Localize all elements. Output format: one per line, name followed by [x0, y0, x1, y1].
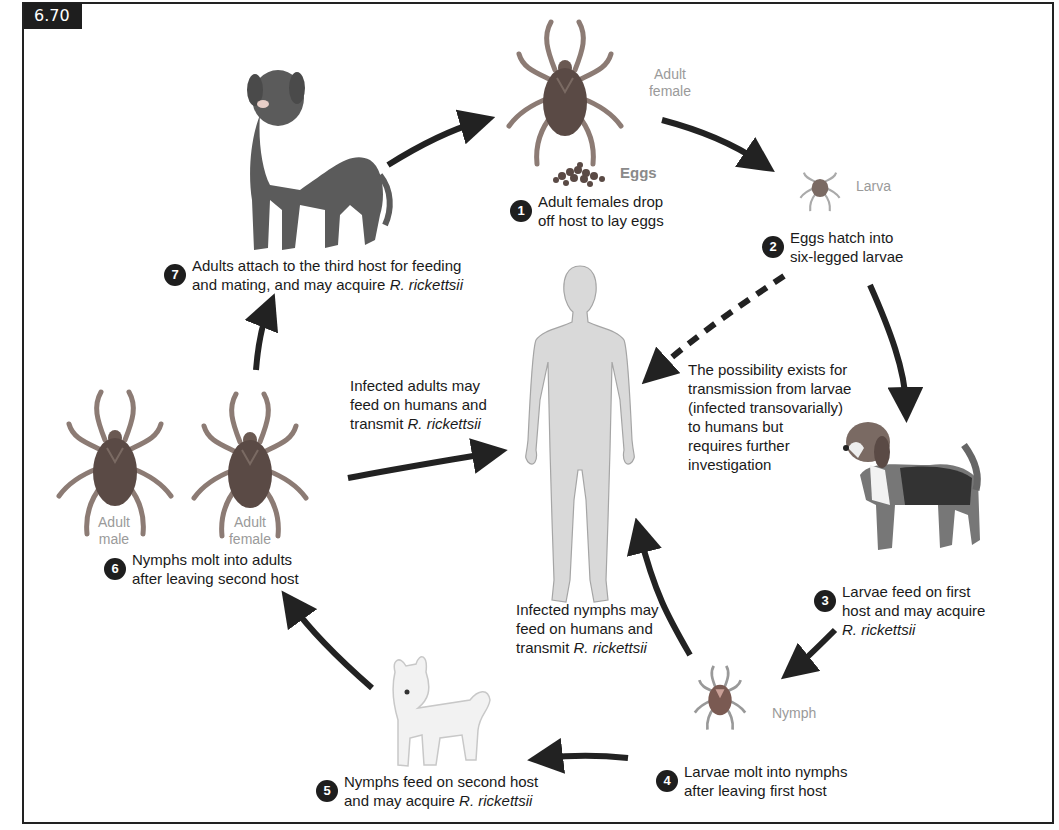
- dashed-arrow-larva-to-human: [655, 276, 784, 372]
- step-6: 6 Nymphs molt into adultsafter leaving s…: [104, 550, 299, 588]
- beagle-first-host: [843, 422, 980, 550]
- arrow-nymph-to-terrier: [545, 756, 628, 758]
- step-badge: 2: [762, 236, 784, 258]
- arrow-dog-to-adult-female: [388, 122, 478, 165]
- step-badge: 5: [316, 780, 338, 802]
- step-7: 7 Adults attach to the third host for fe…: [164, 256, 463, 294]
- adult-female-tick-icon: [509, 22, 621, 164]
- nymph-tick-icon: [695, 666, 745, 730]
- larva-tick-icon: [800, 173, 839, 212]
- label-adult-female-top: Adultfemale: [640, 66, 700, 100]
- step-badge: 3: [814, 590, 836, 612]
- label-adult-male: Adultmale: [84, 514, 144, 548]
- annotation-larvae-to-humans: The possibility exists for transmission …: [688, 360, 851, 474]
- step-4: 4 Larvae molt into nymphsafter leaving f…: [656, 762, 847, 800]
- lifecycle-artwork: [0, 0, 1059, 830]
- label-adult-female-left: Adultfemale: [220, 514, 280, 548]
- eggs-cluster: [553, 162, 605, 187]
- label-nymph: Nymph: [772, 705, 816, 722]
- arrow-terrier-to-adults: [292, 605, 372, 688]
- terrier-second-host: [393, 657, 490, 766]
- adult-male-tick-icon: [59, 392, 171, 534]
- arrow-adults-to-human: [348, 453, 490, 478]
- step-5: 5 Nymphs feed on second hostand may acqu…: [316, 772, 538, 810]
- step-3: 3 Larvae feed on firsthost and may acqui…: [814, 582, 985, 639]
- step-1: 1 Adult females dropoff host to lay eggs: [510, 192, 664, 230]
- step-2: 2 Eggs hatch intosix-legged larvae: [762, 228, 903, 266]
- step-badge: 4: [656, 770, 678, 792]
- label-eggs: Eggs: [620, 164, 657, 181]
- annotation-adults-to-humans: Infected adults may feed on humans and t…: [350, 376, 487, 433]
- step-badge: 7: [164, 264, 186, 286]
- step-badge: 6: [104, 558, 126, 580]
- annotation-nymphs-to-humans: Infected nymphs may feed on humans and t…: [516, 600, 659, 657]
- human-silhouette: [526, 266, 635, 602]
- arrow-larva-to-beagle: [870, 285, 906, 405]
- arrow-adult-to-larva: [662, 120, 760, 162]
- label-larva: Larva: [856, 178, 891, 195]
- arrow-adults-to-big-dog: [256, 310, 268, 370]
- step-badge: 1: [510, 200, 532, 222]
- large-dog-third-host: [247, 70, 390, 250]
